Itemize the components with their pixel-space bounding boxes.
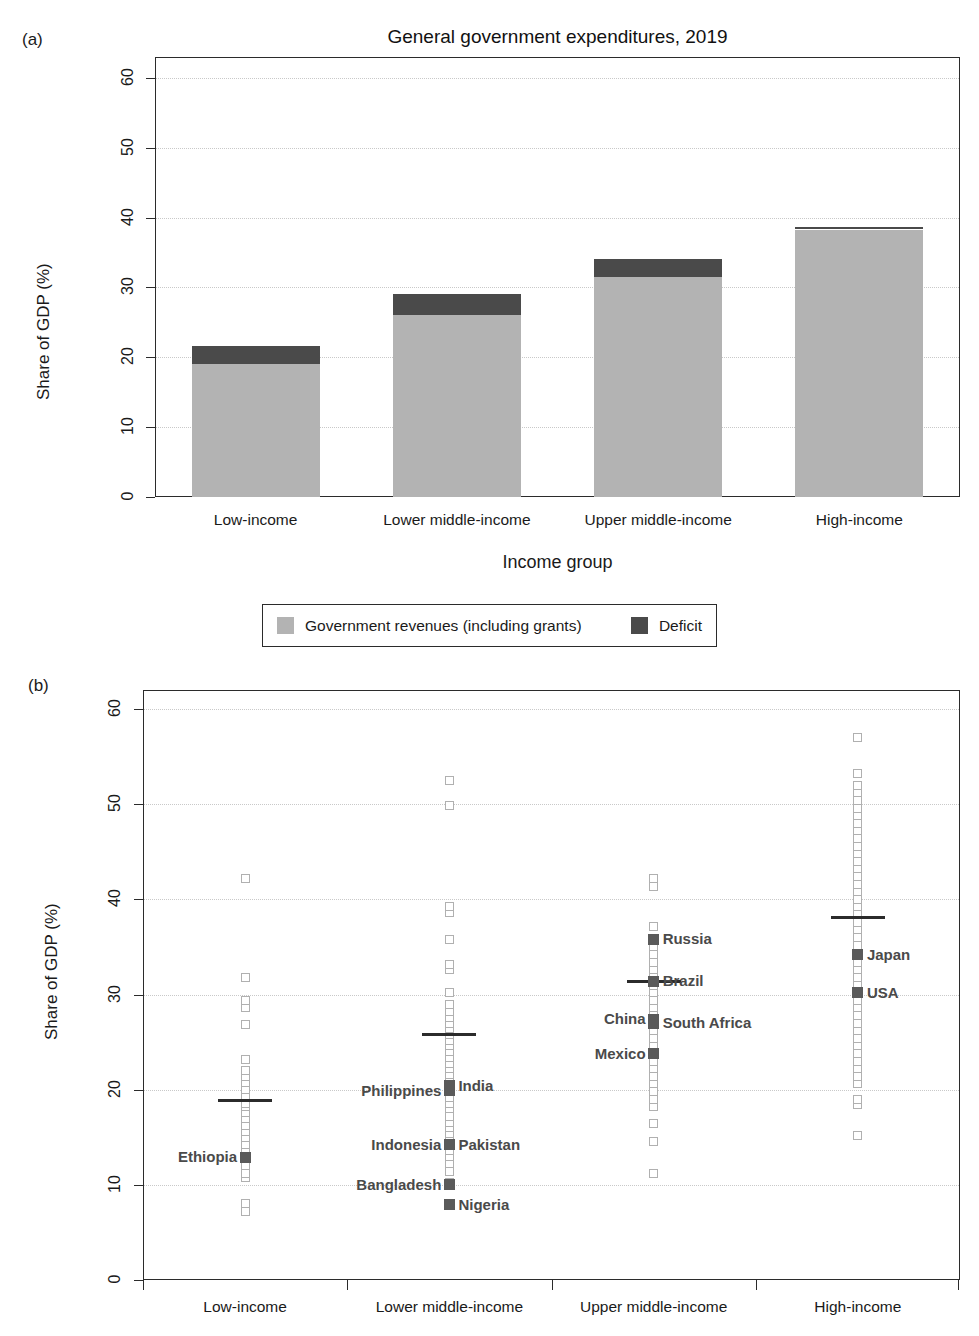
x-tick-label: Lower middle-income	[339, 1298, 559, 1316]
y-tick-mark	[134, 995, 143, 996]
mean-marker	[422, 1033, 476, 1036]
data-point	[445, 801, 454, 810]
x-tick-mark	[347, 1280, 348, 1290]
x-tick-mark	[552, 1280, 553, 1290]
data-point	[241, 1020, 250, 1029]
bar-segment-revenue	[192, 364, 320, 497]
highlighted-data-point	[648, 934, 659, 945]
x-tick-mark	[958, 1280, 959, 1290]
data-point	[241, 1055, 250, 1064]
legend-items: Government revenues (including grants)De…	[263, 617, 716, 635]
data-point	[853, 781, 862, 790]
gridline	[156, 218, 959, 219]
data-point	[241, 874, 250, 883]
y-tick-mark	[146, 497, 155, 498]
y-tick-label: 50	[119, 132, 137, 162]
highlighted-data-point	[648, 976, 659, 987]
country-label: USA	[867, 984, 899, 1001]
y-tick-mark	[134, 1090, 143, 1091]
highlighted-data-point	[852, 987, 863, 998]
y-tick-label: 30	[119, 271, 137, 301]
mean-marker	[831, 916, 885, 919]
panel-b-y-axis-title: Share of GDP (%)	[42, 903, 62, 1040]
x-tick-label: Upper middle-income	[544, 1298, 764, 1316]
x-tick-label: Upper middle-income	[548, 511, 768, 529]
x-tick-label: High-income	[748, 1298, 968, 1316]
panel-b-tag: (b)	[28, 676, 49, 696]
x-tick-label: Lower middle-income	[347, 511, 567, 529]
bar-segment-revenue	[594, 277, 722, 497]
y-tick-label: 40	[119, 202, 137, 232]
highlighted-data-point	[852, 949, 863, 960]
data-point	[241, 1199, 250, 1208]
country-label: Russia	[663, 930, 712, 947]
y-tick-mark	[146, 78, 155, 79]
bar-segment-revenue	[393, 315, 521, 497]
y-tick-mark	[134, 709, 143, 710]
y-tick-mark	[134, 1185, 143, 1186]
country-label: Nigeria	[458, 1196, 509, 1213]
data-point	[853, 1095, 862, 1104]
y-tick-mark	[146, 357, 155, 358]
country-label: Pakistan	[458, 1136, 520, 1153]
legend-item: Government revenues (including grants)	[277, 617, 582, 635]
x-tick-label: High-income	[749, 511, 969, 529]
data-point	[853, 1131, 862, 1140]
y-tick-label: 60	[119, 62, 137, 92]
mean-marker	[218, 1099, 272, 1102]
y-tick-mark	[134, 1280, 143, 1281]
data-point	[241, 973, 250, 982]
y-tick-mark	[146, 287, 155, 288]
country-label: Ethiopia	[17, 1148, 237, 1165]
gridline	[144, 995, 959, 996]
x-tick-mark	[143, 1280, 144, 1290]
y-tick-label: 10	[106, 1168, 124, 1200]
x-tick-mark	[756, 1280, 757, 1290]
y-tick-label: 50	[106, 787, 124, 819]
data-point	[649, 1119, 658, 1128]
data-point	[649, 922, 658, 931]
data-point	[445, 935, 454, 944]
y-tick-label: 30	[106, 978, 124, 1010]
country-label: China	[426, 1010, 646, 1027]
y-tick-mark	[134, 804, 143, 805]
bar-segment-deficit	[594, 259, 722, 277]
y-tick-label: 10	[119, 411, 137, 441]
data-point	[649, 1169, 658, 1178]
y-tick-label: 0	[106, 1263, 124, 1295]
y-tick-mark	[134, 899, 143, 900]
y-tick-label: 40	[106, 882, 124, 914]
bar-segment-revenue	[795, 230, 923, 497]
panel-a-tag: (a)	[22, 30, 43, 50]
country-label: South Africa	[663, 1014, 752, 1031]
highlighted-data-point	[648, 1018, 659, 1029]
legend-swatch-deficit	[631, 617, 648, 634]
country-label: Philippines	[221, 1082, 441, 1099]
gridline	[156, 78, 959, 79]
gridline	[144, 709, 959, 710]
gridline	[144, 804, 959, 805]
panel-a-x-axis-title: Income group	[155, 552, 960, 573]
highlighted-data-point	[240, 1152, 251, 1163]
y-tick-mark	[146, 427, 155, 428]
data-point	[241, 1066, 250, 1075]
y-tick-label: 60	[106, 692, 124, 724]
bar-segment-deficit	[795, 227, 923, 230]
highlighted-data-point	[444, 1139, 455, 1150]
data-point	[853, 769, 862, 778]
highlighted-data-point	[648, 1048, 659, 1059]
x-tick-label: Low-income	[146, 511, 366, 529]
data-point	[241, 996, 250, 1005]
data-point	[853, 733, 862, 742]
highlighted-data-point	[444, 1080, 455, 1091]
highlighted-data-point	[444, 1179, 455, 1190]
panel-a-y-axis-title: Share of GDP (%)	[34, 263, 54, 400]
bar-segment-deficit	[393, 294, 521, 316]
panel-a-title: General government expenditures, 2019	[155, 26, 960, 48]
data-point	[649, 874, 658, 883]
bar-segment-deficit	[192, 346, 320, 364]
data-point	[445, 1000, 454, 1009]
country-label: Bangladesh	[221, 1176, 441, 1193]
gridline	[156, 148, 959, 149]
highlighted-data-point	[444, 1199, 455, 1210]
